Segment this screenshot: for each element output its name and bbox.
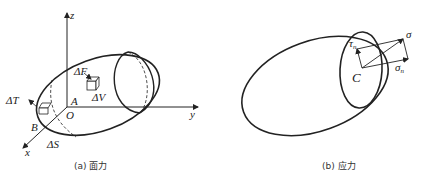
cut-section-front [114, 52, 140, 113]
point-b-label: B [31, 121, 38, 133]
mechanics-diagram: z y x O A B ΔF ΔV ΔT ΔS (a) 面力 [0, 0, 422, 183]
origin-label: O [66, 109, 74, 121]
delta-s-label: ΔS [46, 138, 59, 150]
sigma-label: σ [406, 28, 412, 40]
surface-element-side [39, 108, 48, 114]
z-axis-label: z [69, 9, 75, 21]
caption-a: (a) 面力 [74, 160, 107, 171]
parallelogram-right [403, 39, 408, 59]
surface-element-icon [39, 103, 51, 108]
point-c-label: C [352, 70, 361, 85]
body-outline-b [228, 18, 402, 155]
volume-element-cube-icon [87, 77, 99, 90]
delta-t-label: ΔT [5, 94, 19, 106]
cut-section-back [128, 52, 154, 113]
traction-dt-arrow [29, 100, 37, 107]
caption-b: (b) 应力 [322, 160, 356, 171]
tau-n-arrow [357, 49, 362, 68]
figure-a-surface-force: z y x O A B ΔF ΔV ΔT ΔS (a) 面力 [5, 9, 198, 171]
delta-f-label: ΔF [73, 65, 87, 77]
delta-v-label: ΔV [91, 91, 106, 103]
sigma-n-label: σn [395, 61, 404, 75]
figure-stage: z y x O A B ΔF ΔV ΔT ΔS (a) 面力 [0, 0, 422, 183]
point-a-label: A [70, 95, 78, 107]
tau-n-label: τn [349, 37, 357, 51]
figure-b-stress: τn σ σn C (b) 应力 [228, 18, 412, 171]
x-axis-label: x [24, 146, 30, 158]
y-axis-label: y [189, 108, 195, 120]
